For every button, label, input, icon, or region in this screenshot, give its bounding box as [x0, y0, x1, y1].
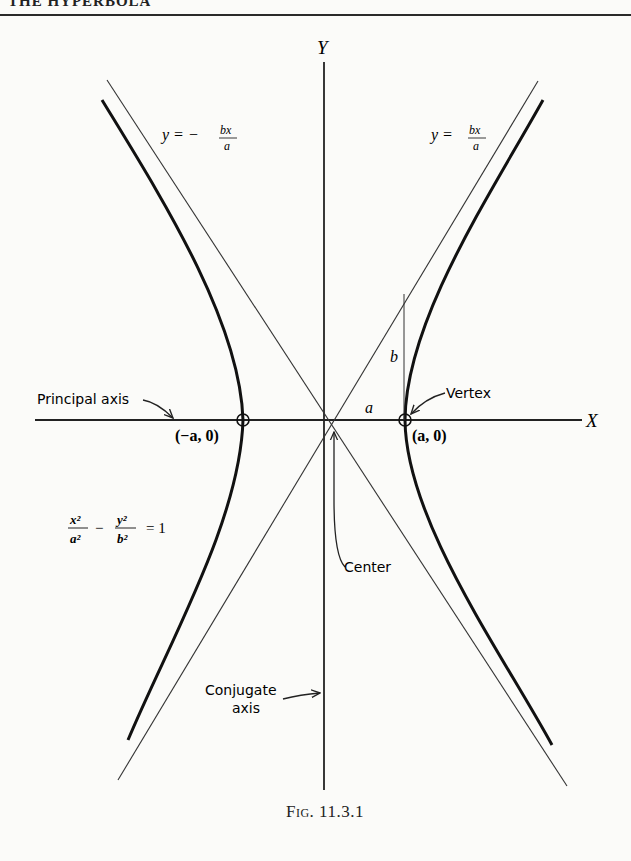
right-vertex-label: (a, 0) [412, 427, 447, 445]
figure-caption: Fig. 11.3.1 [0, 802, 631, 822]
svg-text:a²: a² [70, 531, 82, 546]
svg-text:a: a [224, 139, 230, 153]
conjugate-axis-label-line1: Conjugate [205, 682, 277, 698]
vertex-label: Vertex [446, 385, 491, 401]
hyperbola-right-branch [405, 100, 552, 745]
conjugate-axis-label-line2: axis [232, 700, 260, 716]
b-label: b [390, 348, 398, 365]
svg-text:−: − [95, 520, 103, 536]
asymptote-negative-label: y = − bx a [160, 123, 237, 153]
left-vertex-label: (−a, 0) [175, 427, 219, 445]
svg-text:x²: x² [69, 512, 82, 527]
a-label: a [365, 399, 373, 416]
svg-text:b²: b² [117, 531, 129, 546]
principal-axis-arrow [143, 400, 173, 418]
x-axis-label: X [585, 410, 599, 431]
svg-text:= 1: = 1 [146, 520, 166, 536]
conjugate-axis-arrow [283, 693, 320, 699]
y-axis-label: Y [317, 37, 330, 58]
asymptote-positive-label: y = bx a [429, 123, 486, 153]
hyperbola-figure: Y X y = − bx a y = bx a Principal axis V… [0, 0, 631, 861]
svg-text:y = −: y = − [160, 126, 199, 144]
svg-text:a: a [473, 139, 479, 153]
hyperbola-equation: x² a² − y² b² = 1 [68, 512, 166, 546]
vertex-arrow [411, 393, 445, 414]
svg-text:bx: bx [220, 123, 232, 137]
svg-text:bx: bx [469, 123, 481, 137]
svg-text:y²: y² [115, 512, 128, 527]
principal-axis-label: Principal axis [37, 391, 129, 407]
center-label: Center [344, 559, 391, 575]
svg-text:y =: y = [429, 126, 453, 144]
center-arrow [334, 432, 345, 567]
